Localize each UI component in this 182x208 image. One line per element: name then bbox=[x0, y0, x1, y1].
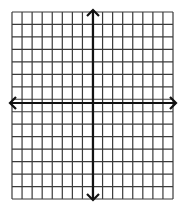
axes bbox=[10, 10, 176, 200]
coordinate-plane bbox=[0, 0, 182, 208]
